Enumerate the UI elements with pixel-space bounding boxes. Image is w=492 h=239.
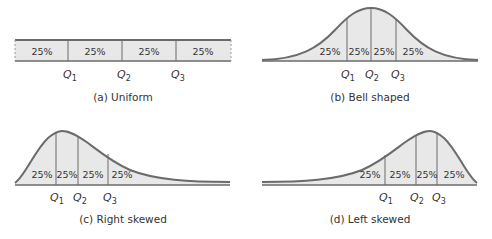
right-skewed-q1-label: Q1: [50, 191, 64, 206]
panel-right-skewed: 25% 25% 25% 25% Q1 Q2 Q3 (c) Right skewe…: [15, 131, 230, 225]
left-skewed-q3-label: Q3: [432, 191, 446, 206]
uniform-q2-label: Q2: [117, 68, 131, 83]
right-skewed-segment-3: 25%: [82, 169, 103, 180]
bell-segment-3: 25%: [373, 46, 394, 57]
bell-fill: [262, 8, 478, 61]
left-skewed-segment-1: 25%: [359, 169, 380, 180]
bell-segment-2: 25%: [348, 46, 369, 57]
bell-q1-label: Q1: [341, 68, 355, 83]
bell-segment-1: 25%: [319, 46, 340, 57]
left-skewed-segment-3: 25%: [416, 169, 437, 180]
uniform-q3-label: Q3: [171, 68, 185, 83]
uniform-segment-4: 25%: [192, 46, 213, 57]
left-skewed-caption: (d) Left skewed: [330, 213, 411, 225]
left-skewed-segment-4: 25%: [443, 169, 464, 180]
bell-segment-4: 25%: [402, 46, 423, 57]
uniform-segment-1: 25%: [31, 46, 52, 57]
uniform-q1-label: Q1: [63, 68, 77, 83]
uniform-segment-2: 25%: [84, 46, 105, 57]
bell-caption: (b) Bell shaped: [330, 91, 409, 103]
right-skewed-segment-4: 25%: [111, 169, 132, 180]
right-skewed-segment-2: 25%: [56, 169, 77, 180]
panel-bell-shaped: 25% 25% 25% 25% Q1 Q2 Q3 (b) Bell shaped: [262, 8, 478, 103]
uniform-segment-3: 25%: [138, 46, 159, 57]
panel-uniform: 25% 25% 25% 25% Q1 Q2 Q3 (a) Uniform: [15, 40, 231, 103]
right-skewed-q3-label: Q3: [103, 191, 117, 206]
right-skewed-segment-1: 25%: [31, 169, 52, 180]
left-skewed-segment-2: 25%: [389, 169, 410, 180]
panel-left-skewed: 25% 25% 25% 25% Q1 Q2 Q3 (d) Left skewed: [262, 131, 477, 225]
quartile-distribution-diagram: 25% 25% 25% 25% Q1 Q2 Q3 (a) Uniform 25%…: [0, 0, 492, 239]
bell-q2-label: Q2: [365, 68, 379, 83]
left-skewed-q1-label: Q1: [379, 191, 393, 206]
right-skewed-caption: (c) Right skewed: [79, 213, 167, 225]
right-skewed-q2-label: Q2: [73, 191, 87, 206]
bell-q3-label: Q3: [391, 68, 405, 83]
uniform-caption: (a) Uniform: [93, 91, 153, 103]
left-skewed-q2-label: Q2: [410, 191, 424, 206]
